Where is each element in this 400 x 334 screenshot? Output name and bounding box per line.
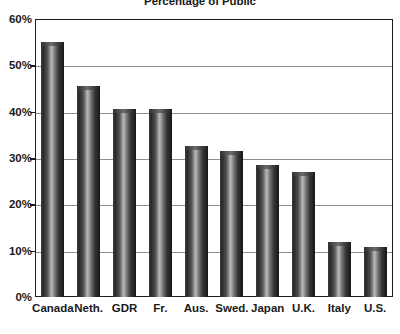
bar-italy — [328, 242, 351, 297]
bar-fr — [149, 109, 172, 297]
bar-japan — [256, 165, 279, 297]
x-axis-tick-label: U.K. — [292, 302, 315, 314]
chart-title: Percentage of Public — [0, 0, 400, 7]
x-axis-tick-label: Aus. — [184, 302, 209, 314]
x-axis-tick-label: GDR — [112, 302, 138, 314]
bars-group — [35, 19, 393, 297]
bar-uk — [292, 172, 315, 297]
bar-gdr — [113, 109, 136, 297]
y-axis-tick-label: 10% — [0, 245, 32, 257]
x-axis-tick-label: U.S. — [364, 302, 386, 314]
y-axis-tick-label: 0% — [0, 291, 32, 303]
x-axis-tick-label: Canada — [32, 302, 74, 314]
bar-chart: Percentage of Public 0%10%20%30%40%50%60… — [0, 0, 400, 334]
y-axis-tick-label: 50% — [0, 59, 32, 71]
x-axis-tick-label: Italy — [328, 302, 351, 314]
bar-neth — [77, 86, 100, 297]
y-axis-tick-label: 20% — [0, 198, 32, 210]
y-axis-tick-label: 60% — [0, 13, 32, 25]
bar-aus — [185, 146, 208, 297]
x-axis-tick-label: Japan — [251, 302, 284, 314]
x-axis-tick-label: Swed. — [215, 302, 248, 314]
y-axis-tick-label: 40% — [0, 106, 32, 118]
bar-us — [364, 247, 387, 297]
y-axis-tick-label: 30% — [0, 152, 32, 164]
bar-canada — [41, 42, 64, 297]
bar-swed — [220, 151, 243, 297]
x-axis-tick-label: Neth. — [74, 302, 103, 314]
x-axis-tick-label: Fr. — [153, 302, 167, 314]
